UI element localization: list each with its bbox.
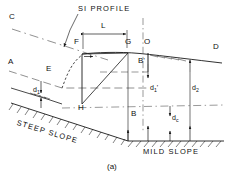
point-label-H: H xyxy=(78,104,84,112)
point-label-O: O xyxy=(144,38,150,46)
dim-label-dc: dc xyxy=(172,114,179,124)
point-label-A: A xyxy=(8,58,13,66)
figure-caption: (a) xyxy=(107,162,117,171)
label-mild-slope: MILD SLOPE xyxy=(143,148,199,156)
line-A-critical-depth xyxy=(9,71,148,88)
figure-canvas: C A E F G O D H B B' L d1 d1' d2 dc SI P… xyxy=(0,0,231,179)
channel-bed-line xyxy=(11,103,224,141)
point-label-F: F xyxy=(74,38,79,46)
s1-water-surface xyxy=(82,52,222,63)
jump-line-GH xyxy=(82,53,128,104)
point-label-C: C xyxy=(9,13,15,21)
dim-label-d1: d1 xyxy=(33,86,40,96)
s1-rising-curve xyxy=(62,55,82,88)
dim-label-d1-prime: d1' xyxy=(150,84,158,94)
dim-label-d2: d2 xyxy=(192,84,199,94)
point-label-B: B xyxy=(131,110,136,118)
annotation-s1-profile: SI PROFILE xyxy=(78,5,130,13)
point-label-G: G xyxy=(125,38,131,46)
dim-label-L: L xyxy=(101,22,105,30)
point-label-D: D xyxy=(213,43,219,51)
point-label-B-prime: B' xyxy=(138,57,145,65)
point-label-E: E xyxy=(46,65,51,73)
